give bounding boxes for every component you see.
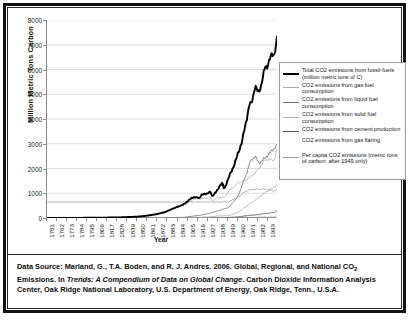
- x-axis-tick-label: 1993: [269, 224, 276, 238]
- caption-publication-title: Trends: A Compendium of Data on Global C…: [67, 275, 242, 284]
- legend-item-label: Per capita CO2 emissions (metric tons of…: [302, 152, 402, 165]
- legend-item-6[interactable]: CO2 emissions from gas flaring: [283, 137, 402, 147]
- x-axis-tick-mark: [237, 218, 238, 221]
- legend-swatch-icon: [283, 69, 299, 77]
- caption-line-2-suffix: . Carbon Dioxide Information Analysis: [242, 275, 376, 284]
- y-axis-tick-label: 2000: [28, 165, 42, 172]
- chart-block: Million Metric Tons Carbon Year 01000200…: [8, 8, 401, 255]
- y-axis-tick-mark: [43, 20, 46, 21]
- y-axis-tick-mark: [43, 94, 46, 95]
- caption-line-3: Center, Oak Ridge National Laboratory, U…: [17, 285, 392, 295]
- x-axis-tick-mark: [46, 218, 47, 221]
- x-axis-tick-label: 1806: [98, 224, 105, 238]
- x-axis-tick-label: 1905: [189, 224, 196, 238]
- legend-item-4[interactable]: CO2 emissions from solid fuel consumptio…: [283, 111, 402, 124]
- y-axis-tick-label: 5000: [28, 91, 42, 98]
- caption-subscript-2: 2: [354, 265, 357, 272]
- x-axis-tick-mark: [126, 218, 127, 221]
- y-axis-tick-label: 6000: [28, 66, 42, 73]
- caption-line-1: Data Source: Marland, G., T.A. Boden, an…: [17, 262, 392, 275]
- x-axis-tick-label: 1795: [88, 224, 95, 238]
- x-axis-tick-label: 1916: [199, 224, 206, 238]
- x-axis-tick-mark: [227, 218, 228, 221]
- x-axis-tick-mark: [56, 218, 57, 221]
- y-axis-tick-mark: [43, 119, 46, 120]
- x-axis-tick-label: 1817: [108, 224, 115, 238]
- x-axis-tick-label: 1828: [118, 224, 125, 238]
- x-axis-tick-mark: [217, 218, 218, 221]
- x-axis-tick-mark: [187, 218, 188, 221]
- x-axis-tick-mark: [197, 218, 198, 221]
- caption-line-2-prefix: Emissions. In: [17, 275, 67, 284]
- figure-caption: Data Source: Marland, G., T.A. Boden, an…: [8, 257, 401, 308]
- x-axis-tick-label: 1861: [149, 224, 156, 238]
- x-axis-tick-label: 1927: [209, 224, 216, 238]
- x-axis-tick-label: 1938: [219, 224, 226, 238]
- legend-item-label: CO2 emissions from cement production: [302, 126, 402, 133]
- x-axis-tick-mark: [116, 218, 117, 221]
- x-axis-tick-mark: [96, 218, 97, 221]
- y-axis-tick-label: 8000: [28, 17, 42, 24]
- legend-swatch-icon: [283, 113, 299, 121]
- legend-item-7[interactable]: Per capita CO2 emissions (metric tons of…: [283, 152, 402, 165]
- series-line-total-co2-fossil-fuels: [47, 36, 277, 218]
- y-axis-tick-label: 0: [38, 215, 42, 222]
- x-axis-tick-label: 1850: [139, 224, 146, 238]
- caption-line-2: Emissions. In Trends: A Compendium of Da…: [17, 275, 392, 285]
- x-axis-tick-label: 1751: [48, 224, 55, 238]
- x-axis-tick-label: 1883: [169, 224, 176, 238]
- x-axis-tick-label: 1894: [179, 224, 186, 238]
- x-axis-tick-label: 1960: [239, 224, 246, 238]
- chart-series-canvas: [47, 20, 277, 218]
- legend-item-label: CO2 emissions from gas fuel consumption: [302, 82, 402, 95]
- y-axis-tick-mark: [43, 169, 46, 170]
- x-axis-tick-mark: [247, 218, 248, 221]
- x-axis-tick-label: 1971: [249, 224, 256, 238]
- x-axis-tick-mark: [257, 218, 258, 221]
- x-axis-tick-mark: [106, 218, 107, 221]
- chart-legend: Total CO2 emissions from fossil-fuels (m…: [279, 62, 406, 180]
- y-axis-tick-mark: [43, 45, 46, 46]
- x-axis-tick-mark: [207, 218, 208, 221]
- caption-line-1-text: Data Source: Marland, G., T.A. Boden, an…: [17, 262, 354, 271]
- legend-item-2[interactable]: CO2 emissions from gas fuel consumption: [283, 82, 402, 95]
- x-axis-tick-mark: [146, 218, 147, 221]
- legend-swatch-icon: [283, 127, 299, 135]
- x-axis-tick-mark: [136, 218, 137, 221]
- legend-item-3[interactable]: CO2 emissions from liquid fuel consumpti…: [283, 96, 402, 109]
- x-axis-tick-label: 1784: [78, 224, 85, 238]
- legend-swatch-icon: [283, 98, 299, 106]
- x-axis-tick-mark: [76, 218, 77, 221]
- x-axis-tick-mark: [86, 218, 87, 221]
- figure-container: Million Metric Tons Carbon Year 01000200…: [0, 0, 409, 320]
- legend-swatch-icon: [283, 153, 299, 161]
- y-axis-tick-label: 4000: [28, 116, 42, 123]
- y-axis-tick-mark: [43, 70, 46, 71]
- x-axis-tick-mark: [267, 218, 268, 221]
- y-axis-tick-label: 7000: [28, 41, 42, 48]
- x-axis-tick-mark: [166, 218, 167, 221]
- x-axis-tick-mark: [177, 218, 178, 221]
- series-line-per-capita-co2: [47, 188, 277, 202]
- x-axis-tick-label: 1773: [68, 224, 75, 238]
- x-axis-tick-label: 1762: [58, 224, 65, 238]
- legend-item-label: Total CO2 emissions from fossil-fuels (m…: [302, 67, 402, 80]
- legend-swatch-icon: [283, 138, 299, 146]
- y-axis-tick-label: 3000: [28, 140, 42, 147]
- x-axis-tick-mark: [66, 218, 67, 221]
- legend-item-label: CO2 emissions from gas flaring: [302, 137, 402, 144]
- x-axis-tick-label: 1982: [259, 224, 266, 238]
- x-axis-tick-label: 1949: [229, 224, 236, 238]
- y-axis-tick-mark: [43, 193, 46, 194]
- legend-item-1[interactable]: Total CO2 emissions from fossil-fuels (m…: [283, 67, 402, 80]
- series-line-cement-production: [47, 211, 277, 218]
- legend-item-label: CO2 emissions from solid fuel consumptio…: [302, 111, 402, 124]
- legend-swatch-icon: [283, 83, 299, 91]
- x-axis-tick-mark: [156, 218, 157, 221]
- legend-item-5[interactable]: CO2 emissions from cement production: [283, 126, 402, 136]
- y-axis-tick-mark: [43, 144, 46, 145]
- legend-item-label: CO2 emissions from liquid fuel consumpti…: [302, 96, 402, 109]
- plot-area: [46, 20, 276, 218]
- x-axis-tick-label: 1872: [159, 224, 166, 238]
- y-axis-tick-label: 1000: [28, 190, 42, 197]
